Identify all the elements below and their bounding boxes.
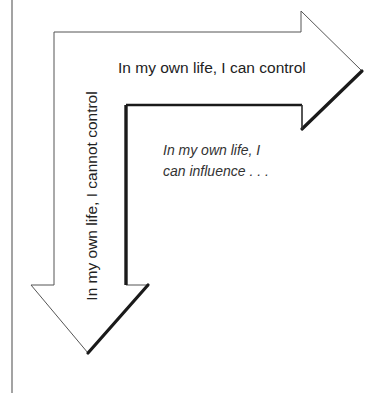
can-influence-line-1: In my own life, I	[163, 140, 269, 161]
cannot-control-label: In my own life, I cannot control	[83, 91, 101, 300]
can-influence-line-2: can influence . . .	[163, 161, 269, 182]
can-control-label: In my own life, I can control	[118, 59, 306, 77]
can-influence-label: In my own life, I can influence . . .	[163, 140, 269, 182]
